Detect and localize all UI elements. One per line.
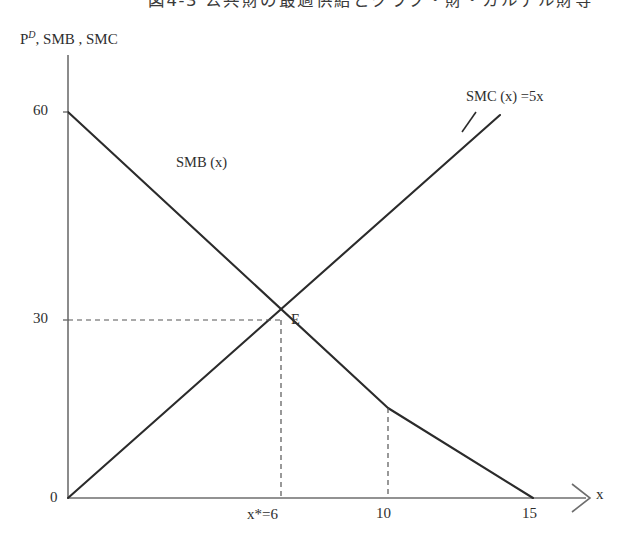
smb-curve [68,112,533,498]
x-axis-title: x [596,487,604,502]
y-tick-label-60: 60 [33,103,48,118]
smc-curve-label: SMC (x) =5x [466,89,543,104]
smb-curve-label: SMB (x) [176,155,227,170]
figure-root: 図4-3 公共財の最適供給とクラブ・財・カルテル財等 PD, SMB , SMC… [0,0,629,556]
y-tick-label-30: 30 [33,311,48,326]
plot-area [0,0,629,556]
x-tick-label-15: 15 [522,506,537,521]
x-tick-label-xstar: x*=6 [247,507,278,522]
origin-label: 0 [50,490,58,505]
equilibrium-point-label: E [291,312,300,327]
y-axis-title: PD, SMB , SMC [20,32,118,47]
y-axis-title-rest: , SMB , SMC [36,31,118,47]
y-axis-title-superscript: D [28,29,35,40]
x-tick-label-10: 10 [376,506,391,521]
smc-label-leader [462,112,476,132]
